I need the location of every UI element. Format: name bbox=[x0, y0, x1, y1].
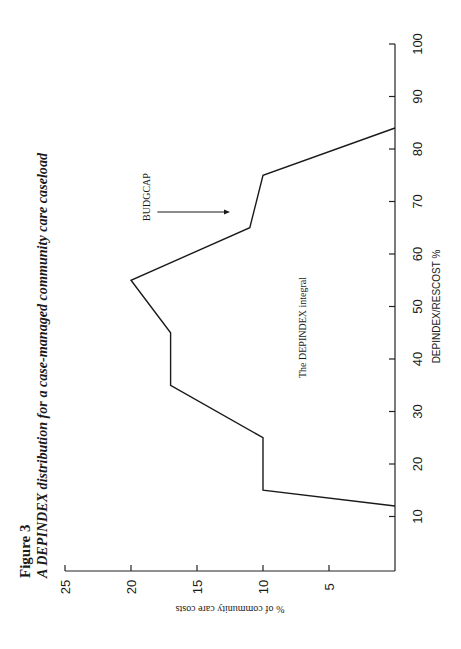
chart-title: A DEPINDEX distribution for a case-manag… bbox=[34, 153, 50, 579]
arrowhead-icon bbox=[224, 210, 230, 215]
y-tick-label: 5 bbox=[322, 583, 337, 590]
x-tick-label: 50 bbox=[410, 299, 425, 313]
annotations: BUDGCAPThe DEPINDEX integral bbox=[141, 173, 308, 378]
axes bbox=[65, 44, 395, 571]
budgcap-label: BUDGCAP bbox=[141, 173, 152, 221]
series-line-depindex bbox=[131, 128, 395, 506]
y-tick-label: 20 bbox=[124, 580, 139, 594]
x-tick-label: 100 bbox=[410, 33, 425, 55]
integral-label: The DEPINDEX integral bbox=[297, 277, 308, 378]
x-axis-label: DEPINDEX/RESCOST % bbox=[431, 250, 442, 364]
chart: 102030405060708090100 510152025 BUDGCAPT… bbox=[0, 0, 461, 649]
figure-label: Figure 3 bbox=[17, 525, 33, 578]
y-tick-label: 10 bbox=[256, 580, 271, 594]
x-tick-label: 70 bbox=[410, 194, 425, 208]
x-ticks: 102030405060708090100 bbox=[389, 33, 425, 524]
y-tick-label: 25 bbox=[58, 580, 73, 594]
x-tick-label: 60 bbox=[410, 247, 425, 261]
y-ticks: 510152025 bbox=[58, 565, 337, 594]
y-axis-label: % of community care costs bbox=[175, 604, 284, 615]
y-tick-label: 15 bbox=[190, 580, 205, 594]
x-tick-label: 40 bbox=[410, 352, 425, 366]
x-tick-label: 20 bbox=[410, 457, 425, 471]
x-tick-label: 30 bbox=[410, 404, 425, 418]
x-tick-label: 90 bbox=[410, 89, 425, 103]
x-tick-label: 80 bbox=[410, 142, 425, 156]
x-tick-label: 10 bbox=[410, 509, 425, 523]
